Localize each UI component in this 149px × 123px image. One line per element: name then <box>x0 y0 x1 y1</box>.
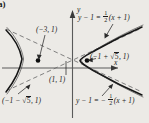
equation-text: y − 1 = 1 2 (x + 1) <box>78 13 130 22</box>
point-vertex-left <box>36 58 41 63</box>
leader-intercept-left-arrowhead <box>26 84 31 89</box>
point-label-vertex-left: (−3, 1) <box>36 26 57 34</box>
one-half-fraction: 1 2 <box>108 93 113 106</box>
point-label-intercept-left: (−1 − √5, 1) <box>2 96 41 105</box>
radical-five: √5 <box>22 96 31 105</box>
leader-asymptote-positive-arrowhead <box>104 33 109 39</box>
point-label-intercept-right: (−1 + √5, 1) <box>90 52 129 61</box>
y-axis-arrowhead <box>70 10 76 18</box>
hyperbola-left-branch <box>6 30 22 92</box>
point-label-text: (−1 − √5, 1) <box>2 96 41 105</box>
point-label-text: (−1 + √5, 1) <box>90 52 129 61</box>
equation-text: y − 1 = − 1 2 (x + 1) <box>76 96 135 105</box>
one-half-fraction: 1 2 <box>103 10 108 23</box>
leader-asymptote-positive <box>106 24 113 36</box>
asymptote-negative-equation: y − 1 = − 1 2 (x + 1) <box>76 93 135 106</box>
point-label-center: (1, 1) <box>49 76 65 84</box>
radical-five: √5 <box>110 52 119 61</box>
asymptote-positive-equation: y − 1 = 1 2 (x + 1) <box>78 10 130 23</box>
leader-vertex-left <box>40 35 46 57</box>
part-label: a) <box>0 0 6 9</box>
